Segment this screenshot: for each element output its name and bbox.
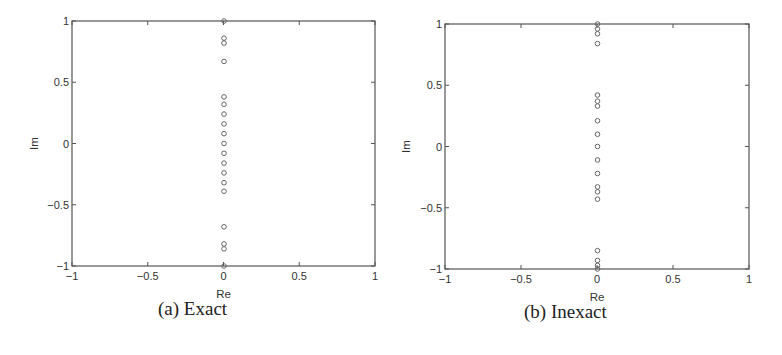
data-point-marker	[222, 102, 227, 107]
data-point-marker	[595, 197, 600, 202]
data-point-marker	[222, 242, 227, 247]
data-point-marker	[222, 131, 227, 136]
data-point-marker	[595, 185, 600, 190]
caption-exact: (a) Exact	[158, 298, 227, 320]
y-tick-label: −1	[56, 260, 69, 272]
y-tick-label: 0	[436, 141, 442, 153]
y-tick-label: 0.5	[427, 79, 442, 91]
data-point-marker	[595, 258, 600, 263]
x-tick-label: −0.5	[510, 273, 532, 285]
data-point-marker	[595, 32, 600, 37]
y-tick-label: −0.5	[420, 202, 442, 214]
data-point-marker	[222, 151, 227, 156]
data-point-marker	[595, 99, 600, 104]
data-point-marker	[595, 93, 600, 98]
data-point-marker	[222, 95, 227, 100]
x-tick-label: 1	[746, 273, 752, 285]
y-axis-label: Im	[400, 140, 412, 153]
x-tick-label: 0	[220, 270, 226, 282]
plot-frame	[445, 24, 749, 269]
data-point-marker	[595, 171, 600, 176]
x-tick-label: 0	[594, 273, 600, 285]
data-point-marker	[222, 141, 227, 146]
data-point-marker	[222, 189, 227, 194]
x-tick-label: 0.5	[665, 273, 680, 285]
data-point-marker	[222, 112, 227, 117]
data-point-marker	[222, 36, 227, 41]
y-tick-label: 0.5	[54, 76, 69, 88]
data-point-marker	[222, 122, 227, 127]
data-point-marker	[595, 144, 600, 149]
y-tick-label: −0.5	[47, 199, 69, 211]
chart-panel-exact: −1−0.500.51−1−0.500.51ReIm (a) Exact	[0, 0, 390, 355]
y-tick-label: 1	[63, 15, 69, 27]
y-tick-label: 1	[436, 18, 442, 30]
data-point-marker	[222, 225, 227, 230]
y-tick-label: 0	[63, 138, 69, 150]
data-point-marker	[595, 190, 600, 195]
data-point-marker	[595, 132, 600, 137]
data-point-marker	[222, 171, 227, 176]
data-point-marker	[222, 59, 227, 64]
data-point-marker	[222, 180, 227, 185]
y-axis-label: Im	[28, 137, 40, 150]
data-point-marker	[595, 104, 600, 109]
x-tick-label: 1	[372, 270, 378, 282]
caption-inexact: (b) Inexact	[524, 301, 607, 323]
data-point-marker	[595, 41, 600, 46]
data-point-marker	[222, 247, 227, 252]
data-point-marker	[222, 41, 227, 46]
y-tick-label: −1	[429, 263, 442, 275]
data-point-marker	[595, 118, 600, 123]
data-point-marker	[595, 248, 600, 253]
x-tick-label: −0.5	[137, 270, 159, 282]
data-point-marker	[222, 161, 227, 166]
data-point-marker	[595, 158, 600, 163]
chart-panel-inexact: −1−0.500.51−1−0.500.51ReIm (b) Inexact	[390, 0, 782, 355]
x-tick-label: 0.5	[292, 270, 307, 282]
